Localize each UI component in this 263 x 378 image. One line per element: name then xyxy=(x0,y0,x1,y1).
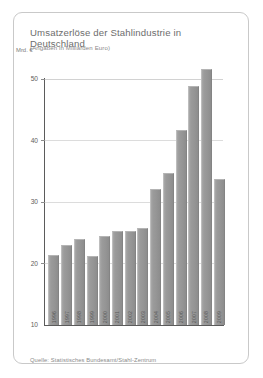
bar-2009: 2009 xyxy=(214,179,225,325)
source-caption: Quelle: Statistisches Bundesamt/Stahl-Ze… xyxy=(30,357,156,363)
bar-label-wrap-2008: 2008 xyxy=(202,297,211,323)
bar-label-wrap-1998: 1998 xyxy=(75,297,84,323)
bar-label-wrap-2000: 2000 xyxy=(100,297,109,323)
bar-label-wrap-1996: 1996 xyxy=(49,297,58,323)
bar-1998: 1998 xyxy=(74,239,85,325)
bar-year-label-2001: 2001 xyxy=(114,311,120,323)
bar-1999: 1999 xyxy=(87,256,98,325)
bar-year-label-1999: 1999 xyxy=(89,311,95,323)
bar-label-wrap-2002: 2002 xyxy=(126,297,135,323)
bar-year-label-2004: 2004 xyxy=(153,311,159,323)
x-axis-line xyxy=(44,325,224,326)
bar-year-label-1997: 1997 xyxy=(64,311,70,323)
bar-year-label-2002: 2002 xyxy=(127,311,133,323)
y-tick-label-10: 10 xyxy=(10,321,38,328)
bar-label-wrap-2009: 2009 xyxy=(215,297,224,323)
y-tick-label-40: 40 xyxy=(10,137,38,144)
bar-label-wrap-2004: 2004 xyxy=(151,297,160,323)
bar-label-wrap-1997: 1997 xyxy=(62,297,71,323)
bar-2008: 2008 xyxy=(201,69,212,325)
bar-2006: 2006 xyxy=(176,130,187,325)
bar-year-label-2003: 2003 xyxy=(140,311,146,323)
bar-1997: 1997 xyxy=(61,245,72,325)
bar-year-label-2005: 2005 xyxy=(165,311,171,323)
bar-2002: 2002 xyxy=(125,231,136,325)
bar-2004: 2004 xyxy=(150,189,161,325)
bar-1996: 1996 xyxy=(48,255,59,325)
bar-label-wrap-2006: 2006 xyxy=(177,297,186,323)
bar-year-label-2008: 2008 xyxy=(203,311,209,323)
bar-year-label-1996: 1996 xyxy=(51,311,57,323)
bar-year-label-2000: 2000 xyxy=(102,311,108,323)
bar-2000: 2000 xyxy=(99,236,110,325)
bar-year-label-2006: 2006 xyxy=(178,311,184,323)
y-tick-label-30: 30 xyxy=(10,198,38,205)
bar-year-label-1998: 1998 xyxy=(76,311,82,323)
bar-plot-area: 1996199719981999200020012002200320042005… xyxy=(45,79,223,325)
bar-label-wrap-2007: 2007 xyxy=(189,297,198,323)
y-tick-label-20: 20 xyxy=(10,260,38,267)
bar-label-wrap-2001: 2001 xyxy=(113,297,122,323)
bar-2001: 2001 xyxy=(112,231,123,325)
bar-2007: 2007 xyxy=(188,86,199,325)
bar-label-wrap-2005: 2005 xyxy=(164,297,173,323)
bar-year-label-2007: 2007 xyxy=(191,311,197,323)
bar-label-wrap-1999: 1999 xyxy=(88,297,97,323)
chart-subtitle: (Angaben in Milliarden Euro) xyxy=(30,44,235,51)
y-axis-unit-label: Mrd. € xyxy=(16,47,33,53)
y-tick-label-50: 50 xyxy=(10,75,38,82)
bar-label-wrap-2003: 2003 xyxy=(138,297,147,323)
bar-year-label-2009: 2009 xyxy=(216,311,222,323)
bar-2005: 2005 xyxy=(163,173,174,325)
bar-2003: 2003 xyxy=(137,228,148,325)
